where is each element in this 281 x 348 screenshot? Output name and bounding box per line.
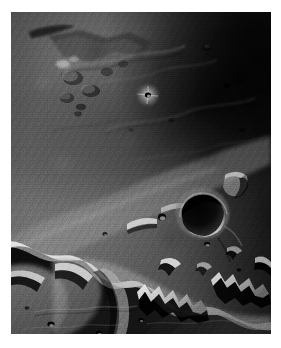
vignette-layer xyxy=(11,12,271,334)
screenshot-root xyxy=(0,0,281,348)
photograph-scene xyxy=(11,12,271,334)
terrain-photograph xyxy=(11,12,271,334)
